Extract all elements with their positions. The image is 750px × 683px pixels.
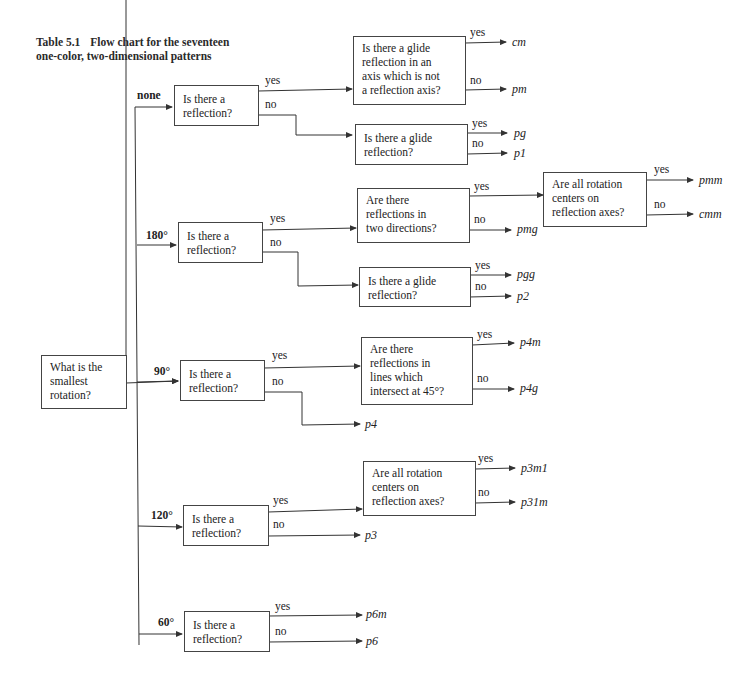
glide-axis-question-box: Is there a glide reflection in an axis w… — [353, 36, 466, 105]
intersect-45-question-box: Are there reflections in lines which int… — [361, 337, 473, 405]
question-line: lines which — [370, 370, 464, 384]
question-line: Is there a glide — [362, 41, 457, 55]
yes-label: yes — [470, 26, 485, 38]
root-line: smallest — [50, 374, 118, 388]
result-p4g: p4g — [520, 381, 538, 396]
rotation-label-60: 60° — [158, 616, 174, 628]
yes-label: yes — [273, 494, 288, 506]
question-line: centers on — [372, 480, 467, 494]
yes-label: yes — [472, 117, 487, 129]
no-label: no — [470, 74, 482, 86]
question-line: a reflection axis? — [362, 83, 457, 97]
result-p4: p4 — [365, 417, 377, 432]
no-label: no — [475, 280, 487, 292]
no-label: no — [273, 518, 285, 530]
question-line: reflection? — [193, 632, 261, 646]
yes-label: yes — [474, 180, 489, 192]
result-pm: pm — [512, 82, 527, 97]
question-line: centers on — [552, 191, 638, 205]
result-p31m: p31m — [521, 495, 548, 510]
question-line: Is there a glide — [364, 131, 459, 145]
question-line: Is there a — [189, 367, 256, 381]
result-pg: pg — [514, 126, 526, 141]
result-p4m: p4m — [520, 335, 541, 350]
question-line: axis which is not — [362, 69, 457, 83]
question-line: Is there a — [187, 229, 254, 243]
glide-question-box-none: Is there a glide reflection? — [355, 124, 468, 165]
question-line: Is there a — [193, 618, 261, 632]
question-line: reflection? — [183, 106, 250, 120]
reflection-question-180: Is there a reflection? — [178, 222, 263, 263]
question-line: reflections in — [370, 356, 464, 370]
question-line: reflection? — [187, 243, 254, 257]
yes-label: yes — [270, 212, 285, 224]
result-p1: p1 — [514, 146, 526, 161]
result-p3m1: p3m1 — [521, 461, 548, 476]
yes-label: yes — [475, 259, 490, 271]
question-line: reflections in — [366, 207, 461, 221]
result-p3: p3 — [365, 528, 377, 543]
glide-question-box-180: Is there a glide reflection? — [359, 267, 471, 307]
rotation-label-90: 90° — [154, 365, 170, 377]
result-p6: p6 — [366, 634, 378, 649]
root-line: What is the — [50, 360, 118, 374]
question-line: reflection? — [192, 526, 260, 540]
rotation-label-none: none — [137, 89, 161, 101]
result-p6m: p6m — [366, 607, 387, 622]
question-line: Is there a — [183, 92, 250, 106]
no-label: no — [477, 372, 489, 384]
yes-label: yes — [654, 163, 669, 175]
question-line: reflection axes? — [552, 205, 638, 219]
result-cmm: cmm — [699, 207, 722, 222]
result-pmg: pmg — [517, 222, 538, 237]
no-label: no — [270, 236, 282, 248]
yes-label: yes — [265, 74, 280, 86]
rotation-centers-question-box-120: Are all rotation centers on reflection a… — [363, 461, 476, 516]
yes-label: yes — [477, 328, 492, 340]
no-label: no — [472, 137, 484, 149]
result-pgg: pgg — [517, 267, 535, 282]
question-line: Are there — [370, 342, 464, 356]
question-line: reflection? — [364, 145, 459, 159]
two-directions-question-box: Are there reflections in two directions? — [357, 188, 470, 243]
no-label: no — [272, 375, 284, 387]
yes-label: yes — [478, 452, 493, 464]
no-label: no — [654, 198, 666, 210]
yes-label: yes — [275, 600, 290, 612]
root-line: rotation? — [50, 388, 118, 402]
question-line: Is there a glide — [368, 274, 462, 288]
question-line: reflection? — [189, 381, 256, 395]
no-label: no — [474, 213, 486, 225]
no-label: no — [478, 486, 490, 498]
question-line: reflection in an — [362, 55, 457, 69]
question-line: two directions? — [366, 221, 461, 235]
rotation-label-120: 120° — [151, 509, 173, 521]
question-line: Are all rotation — [552, 177, 638, 191]
root-question-box: What is the smallest rotation? — [41, 355, 127, 409]
reflection-question-60: Is there a reflection? — [184, 611, 270, 652]
rotation-label-180: 180° — [146, 229, 168, 241]
reflection-question-90: Is there a reflection? — [180, 360, 265, 401]
result-pmm: pmm — [699, 173, 722, 188]
question-line: intersect at 45°? — [370, 384, 464, 398]
question-line: Are all rotation — [372, 466, 467, 480]
yes-label: yes — [272, 349, 287, 361]
no-label: no — [275, 625, 287, 637]
question-line: Are there — [366, 193, 461, 207]
reflection-question-none: Is there a reflection? — [174, 85, 259, 126]
no-label: no — [265, 98, 277, 110]
rotation-centers-question-box-180: Are all rotation centers on reflection a… — [543, 172, 647, 227]
question-line: Is there a — [192, 512, 260, 526]
reflection-question-120: Is there a reflection? — [183, 505, 269, 546]
result-p2: p2 — [517, 289, 529, 304]
question-line: reflection axes? — [372, 494, 467, 508]
result-cm: cm — [512, 35, 526, 50]
question-line: reflection? — [368, 288, 462, 302]
